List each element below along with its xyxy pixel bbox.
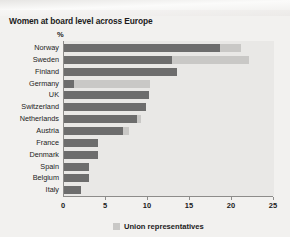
bar-segment (64, 80, 74, 88)
bar-segment (172, 56, 249, 64)
chart-screenshot: Women at board level across Europe % 051… (0, 0, 290, 237)
bar-segment (64, 91, 149, 99)
category-label-netherlands: Netherlands (20, 115, 59, 123)
x-axis-tick-label: 25 (269, 201, 277, 210)
axis-unit-label: % (57, 30, 64, 39)
x-axis-tick (273, 197, 274, 200)
category-label-denmark: Denmark (29, 151, 59, 159)
bar-row (64, 80, 274, 88)
x-axis-tick-label: 20 (227, 201, 235, 210)
category-label-france: France (36, 139, 59, 147)
legend-swatch-union-representatives (113, 223, 120, 230)
category-label-finland: Finland (35, 68, 59, 76)
bar-segment (64, 56, 172, 64)
bar-row (64, 186, 274, 194)
bar-segment (74, 80, 150, 88)
bar-segment (64, 103, 146, 111)
legend-label-union-representatives: Union representatives (124, 222, 204, 231)
bar-row (64, 91, 274, 99)
bar-row (64, 127, 274, 135)
bar-row (64, 163, 274, 171)
bar-segment (123, 127, 129, 135)
bar-row (64, 115, 274, 123)
bar-row (64, 56, 274, 64)
category-label-spain: Spain (40, 163, 59, 171)
bar-segment (64, 163, 89, 171)
bar-segment (137, 115, 141, 123)
bar-row (64, 68, 274, 76)
category-label-norway: Norway (34, 44, 59, 52)
x-axis-tick (231, 197, 232, 200)
category-label-austria: Austria (36, 127, 59, 135)
chart-title: Women at board level across Europe (9, 16, 153, 26)
bar-row (64, 174, 274, 182)
bar-segment (64, 174, 89, 182)
category-label-uk: UK (49, 91, 59, 99)
chart-legend: Union representatives (113, 222, 204, 231)
category-label-switzerland: Switzerland (21, 103, 59, 111)
x-axis-tick (147, 197, 148, 200)
bar-row (64, 44, 274, 52)
x-axis-tick (105, 197, 106, 200)
plot-area (63, 41, 274, 196)
scan-artifact (0, 0, 290, 14)
x-axis-tick-label: 10 (143, 201, 151, 210)
x-axis-line (63, 196, 273, 197)
bar-segment (64, 151, 98, 159)
x-axis-tick-label: 5 (103, 201, 107, 210)
x-axis-tick-label: 15 (185, 201, 193, 210)
bar-segment (64, 68, 177, 76)
bar-segment (220, 44, 241, 52)
category-label-sweden: Sweden (33, 56, 59, 64)
x-axis-tick (189, 197, 190, 200)
x-axis-tick-label: 0 (61, 201, 65, 210)
bars-container (64, 41, 274, 196)
bar-segment (64, 127, 123, 135)
category-label-belgium: Belgium (33, 174, 59, 182)
category-label-italy: Italy (46, 186, 59, 194)
bar-row (64, 151, 274, 159)
bar-segment (64, 115, 137, 123)
category-label-germany: Germany (29, 80, 59, 88)
bar-segment (64, 139, 98, 147)
bar-segment (64, 186, 81, 194)
bar-row (64, 103, 274, 111)
bar-segment (64, 44, 220, 52)
bar-row (64, 139, 274, 147)
